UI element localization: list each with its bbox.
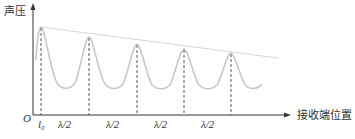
interval-label-4: λ/2 xyxy=(200,118,215,130)
x-axis-arrow-icon xyxy=(284,113,291,118)
y-axis-arrow-icon xyxy=(31,3,36,10)
start-marker-subscript: 0 xyxy=(41,124,45,132)
standing-wave-diagram: 声压 接收端位置 O l0 λ/2 λ/2 λ/2 λ/2 xyxy=(0,0,355,139)
start-marker-label: l0 xyxy=(38,118,45,132)
x-axis-label: 接收端位置 xyxy=(297,108,352,122)
origin-label: O xyxy=(23,112,31,124)
interval-label-1: λ/2 xyxy=(57,118,72,130)
interval-label-2: λ/2 xyxy=(105,118,120,130)
peak-envelope-line xyxy=(41,27,278,58)
interval-label-3: λ/2 xyxy=(153,118,168,130)
sound-pressure-curve xyxy=(36,27,262,89)
y-axis-label: 声压 xyxy=(4,4,26,18)
